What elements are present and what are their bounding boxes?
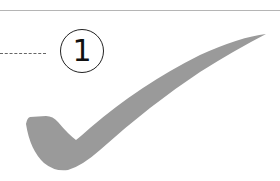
checkmark-icon xyxy=(0,0,280,181)
